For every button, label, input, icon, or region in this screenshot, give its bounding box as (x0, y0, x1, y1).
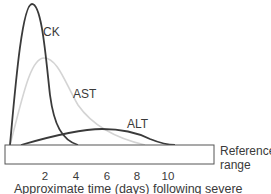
alt-curve (21, 129, 175, 145)
chart: CK AST ALT Reference range 2 4 6 8 10 Ap… (0, 0, 271, 194)
x-tick-4: 4 (73, 170, 80, 182)
x-tick-8: 8 (134, 170, 140, 182)
x-tick-6: 6 (104, 170, 110, 182)
alt-label: ALT (127, 117, 149, 131)
x-tick-2: 2 (42, 170, 48, 182)
x-axis-label: Approximate time (days) following severe (14, 182, 243, 194)
ck-label: CK (43, 25, 60, 39)
x-tick-10: 10 (162, 170, 175, 182)
reference-label-line2: range (220, 158, 251, 172)
ast-label: AST (73, 87, 97, 101)
reference-range-box (5, 145, 214, 164)
reference-label-line1: Reference (220, 144, 271, 158)
